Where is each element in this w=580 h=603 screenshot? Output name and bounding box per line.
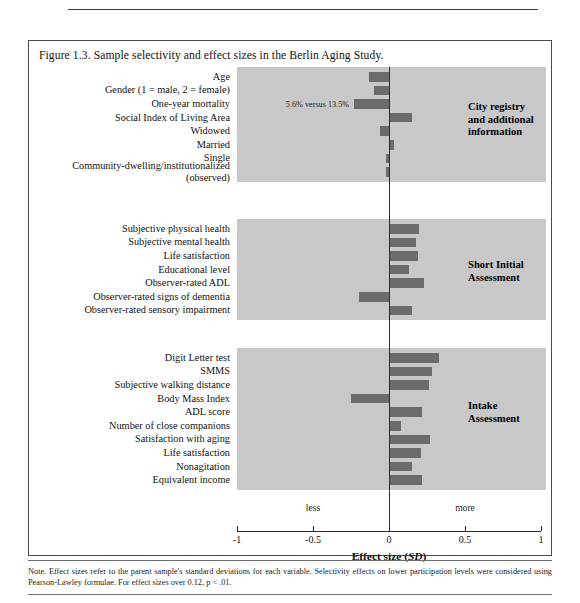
panel-title-line: Short Initial (468, 259, 524, 272)
x-axis-tick-label: -1 (233, 534, 241, 545)
chart-bar (351, 394, 389, 404)
chart-bar (389, 475, 422, 485)
chart-bar (389, 435, 430, 445)
chart-bar (389, 238, 416, 248)
panel-title-line: Assessment (468, 272, 524, 285)
row-label: One-year mortality (151, 98, 230, 109)
row-label: Digit Letter test (165, 352, 230, 363)
row-label: Number of close companions (109, 420, 230, 431)
note-separator-top (28, 560, 552, 561)
chart-bar (389, 421, 401, 431)
row-label: Equivalent income (153, 475, 231, 486)
row-label: Age (213, 71, 230, 82)
x-axis-tick-label: 0 (387, 534, 392, 545)
chart-bar (389, 251, 418, 261)
x-axis-tick (313, 526, 314, 531)
row-label: Body Mass Index (157, 393, 230, 404)
chart-row: SMMS (237, 365, 546, 379)
row-label: Nonagitation (176, 461, 230, 472)
chart-area: AgeGender (1 = male, 2 = female)One-year… (29, 41, 553, 557)
chart-bar (389, 407, 422, 417)
panel-title-line: information (468, 126, 534, 139)
x-axis-tick (237, 526, 238, 531)
row-label: Life satisfaction (163, 447, 230, 458)
note-line-1: Note. Effect sizes refer to the parent s… (28, 567, 493, 576)
x-axis-tick (389, 526, 390, 531)
chart-row: Life satisfaction (237, 446, 546, 460)
chart-bar (389, 462, 412, 472)
note-separator-bottom (28, 594, 552, 595)
row-label: Community-dwelling/institutionalized(obs… (72, 160, 230, 183)
panel-title-line: Intake (468, 400, 520, 413)
chart-row: Single (237, 152, 546, 166)
chart-panel: Digit Letter testSMMSSubjective walking … (237, 348, 546, 490)
figure-container: Figure 1.3. Sample selectivity and effec… (28, 40, 552, 556)
row-label: Observer-rated ADL (145, 278, 230, 289)
row-label: ADL score (185, 407, 230, 418)
panel-title-line: Assessment (468, 413, 520, 426)
row-label: Gender (1 = male, 2 = female) (105, 85, 230, 96)
panel-title: Short InitialAssessment (468, 259, 524, 284)
x-axis-line (237, 531, 541, 532)
row-label: Educational level (158, 264, 230, 275)
chart-row: Observer-rated sensory impairment (237, 304, 546, 318)
chart-row: Digit Letter test (237, 351, 546, 365)
chart-row: Community-dwelling/institutionalized(obs… (237, 165, 546, 179)
row-label: SMMS (200, 366, 230, 377)
x-axis-tick-label: 0.5 (459, 534, 472, 545)
zero-reference-line (389, 67, 390, 531)
chart-row: Subjective physical health (237, 222, 546, 236)
chart-bar (369, 72, 389, 82)
panel-title-line: and additional (468, 114, 534, 127)
chart-bar (389, 278, 424, 288)
chart-panel: AgeGender (1 = male, 2 = female)One-year… (237, 67, 546, 182)
chart-row: Gender (1 = male, 2 = female) (237, 84, 546, 98)
chart-bar (389, 265, 409, 275)
chart-row: Subjective mental health (237, 236, 546, 250)
page-top-rule (68, 9, 538, 10)
row-label: Married (197, 139, 230, 150)
chart-row: Married (237, 138, 546, 152)
figure-note: Note. Effect sizes refer to the parent s… (28, 566, 552, 589)
chart-bar (389, 224, 419, 234)
chart-row: Age (237, 70, 546, 84)
row-label: Subjective mental health (128, 237, 230, 248)
chart-bar (389, 113, 412, 123)
chart-bar (389, 306, 412, 316)
x-axis-tick-label: 1 (539, 534, 544, 545)
row-label: Life satisfaction (163, 250, 230, 261)
chart-bar (380, 126, 389, 136)
x-axis-tick (541, 526, 542, 531)
chart-row: Observer-rated signs of dementia (237, 290, 546, 304)
row-label: Social Index of Living Area (115, 112, 230, 123)
chart-row: Subjective walking distance (237, 378, 546, 392)
panel-title-line: City registry (468, 101, 534, 114)
row-label: Observer-rated sensory impairment (84, 305, 230, 316)
chart-row: Nonagitation (237, 460, 546, 474)
axis-direction-more: more (455, 502, 475, 513)
row-label: Subjective walking distance (114, 379, 230, 390)
row-label: Satisfaction with aging (135, 434, 230, 445)
x-axis-tick (465, 526, 466, 531)
axis-direction-less: less (306, 502, 320, 513)
chart-bar (359, 292, 389, 302)
chart-bar (389, 367, 432, 377)
row-label: Widowed (190, 126, 230, 137)
chart-bar (354, 99, 389, 109)
chart-row: Satisfaction with aging (237, 433, 546, 447)
chart-row: Equivalent income (237, 473, 546, 487)
x-axis-tick-label: -0.5 (305, 534, 321, 545)
bar-annotation: 5.6% versus 13.5% (286, 99, 349, 108)
row-label: Subjective physical health (122, 223, 230, 234)
panel-title: City registryand additionalinformation (468, 101, 534, 139)
panel-title: IntakeAssessment (468, 400, 520, 425)
row-label: Observer-rated signs of dementia (93, 291, 230, 302)
chart-bar (374, 86, 389, 96)
chart-bar (389, 448, 421, 458)
chart-bar (389, 353, 439, 363)
chart-bar (389, 380, 429, 390)
chart-panel: Subjective physical healthSubjective men… (237, 219, 546, 320)
